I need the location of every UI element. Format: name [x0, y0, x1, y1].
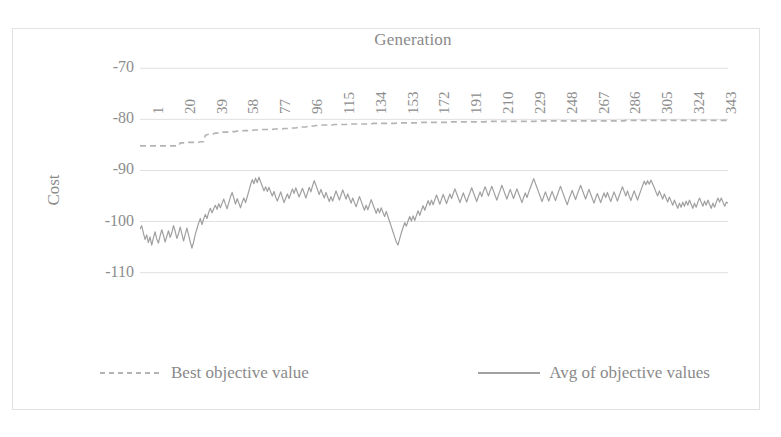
plot-area — [140, 58, 728, 288]
y-tick-label: -110 — [74, 264, 134, 280]
plot-svg — [140, 58, 728, 288]
y-tick-label: -80 — [74, 110, 134, 126]
legend-swatch-dashed-line-icon — [100, 368, 162, 378]
chart-legend: Best objective valueAvg of objective val… — [100, 358, 710, 388]
legend-entry-best[interactable]: Best objective value — [100, 363, 309, 383]
legend-entry-avg[interactable]: Avg of objective values — [478, 363, 710, 383]
y-tick-label: -70 — [74, 59, 134, 75]
legend-swatch-solid-line-icon — [478, 368, 540, 378]
series-line-best — [140, 120, 728, 146]
legend-label: Avg of objective values — [549, 363, 710, 383]
legend-label: Best objective value — [171, 363, 309, 383]
series-line-avg — [140, 177, 728, 248]
y-tick-label: -90 — [74, 161, 134, 177]
y-tick-label: -100 — [74, 213, 134, 229]
y-axis-title: Cost — [44, 150, 64, 230]
